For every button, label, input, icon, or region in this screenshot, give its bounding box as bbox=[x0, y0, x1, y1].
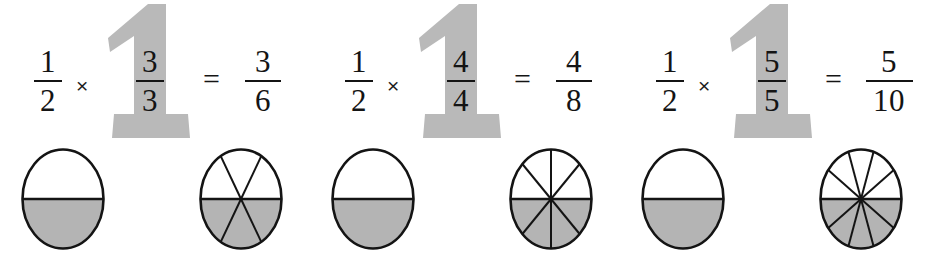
equals-sign: = bbox=[203, 64, 220, 94]
fraction-denominator: 5 bbox=[752, 85, 792, 116]
fraction-result: 5 10 bbox=[859, 46, 919, 116]
fraction-one-half: 1 2 bbox=[339, 46, 379, 116]
fraction-bar bbox=[345, 80, 373, 82]
fraction-bar bbox=[758, 80, 786, 82]
multiplication-sign: × bbox=[76, 74, 88, 98]
fraction-denominator: 4 bbox=[441, 85, 481, 116]
fraction-circle-five-tenths bbox=[818, 147, 904, 251]
fraction-circle-half-1 bbox=[20, 147, 106, 251]
fraction-one-half: 1 2 bbox=[650, 46, 690, 116]
fraction-unit-one: 5 5 bbox=[752, 46, 792, 116]
fraction-bar bbox=[447, 80, 475, 82]
fraction-result: 3 6 bbox=[237, 46, 289, 116]
fraction-denominator: 2 bbox=[339, 85, 379, 116]
fraction-numerator: 3 bbox=[237, 46, 289, 77]
fraction-bar bbox=[866, 80, 913, 82]
fraction-circles-row bbox=[0, 143, 934, 257]
fraction-denominator: 10 bbox=[859, 85, 919, 116]
equation-group-3: 1 2 × 5 5 = 5 10 bbox=[622, 0, 933, 143]
fraction-unit-one: 3 3 bbox=[130, 46, 170, 116]
fraction-bar bbox=[136, 80, 164, 82]
fraction-result: 4 8 bbox=[548, 46, 600, 116]
fraction-denominator: 6 bbox=[237, 85, 289, 116]
fraction-bar bbox=[556, 80, 592, 82]
fraction-denominator: 2 bbox=[650, 85, 690, 116]
fraction-numerator: 3 bbox=[130, 46, 170, 77]
fraction-denominator: 3 bbox=[130, 85, 170, 116]
fraction-circle-three-sixths bbox=[198, 147, 284, 251]
fraction-numerator: 1 bbox=[650, 46, 690, 77]
fraction-numerator: 4 bbox=[441, 46, 481, 77]
fraction-bar bbox=[34, 80, 62, 82]
worksheet-figure: 1 2 × 3 3 = 3 6 bbox=[0, 0, 934, 257]
multiplication-sign: × bbox=[387, 74, 399, 98]
fraction-numerator: 4 bbox=[548, 46, 600, 77]
fraction-numerator: 5 bbox=[752, 46, 792, 77]
fraction-numerator: 1 bbox=[339, 46, 379, 77]
fraction-bar bbox=[245, 80, 281, 82]
fraction-denominator: 2 bbox=[28, 85, 68, 116]
fraction-bar bbox=[656, 80, 684, 82]
fraction-unit-one: 4 4 bbox=[441, 46, 481, 116]
equals-sign: = bbox=[514, 64, 531, 94]
multiplication-sign: × bbox=[698, 74, 710, 98]
fraction-numerator: 5 bbox=[859, 46, 919, 77]
equals-sign: = bbox=[825, 64, 842, 94]
fraction-circle-half-2 bbox=[330, 147, 416, 251]
fraction-circle-half-3 bbox=[640, 147, 726, 251]
fraction-numerator: 1 bbox=[28, 46, 68, 77]
equation-group-1: 1 2 × 3 3 = 3 6 bbox=[0, 0, 311, 143]
equation-group-2: 1 2 × 4 4 = 4 8 bbox=[311, 0, 622, 143]
fraction-one-half: 1 2 bbox=[28, 46, 68, 116]
fraction-circle-four-eighths bbox=[508, 147, 594, 251]
fraction-denominator: 8 bbox=[548, 85, 600, 116]
equations-row: 1 2 × 3 3 = 3 6 bbox=[0, 0, 934, 143]
